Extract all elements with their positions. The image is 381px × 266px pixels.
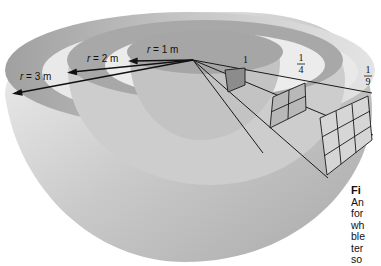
label-r3: r = 3 m [20, 71, 51, 82]
label-r1: r = 1 m [147, 44, 178, 55]
svg-text:4: 4 [299, 64, 304, 75]
caption-line: so [351, 254, 381, 266]
caption-line: ble [351, 231, 381, 243]
svg-text:9: 9 [366, 76, 371, 87]
caption-line: for [351, 208, 381, 220]
caption-title: Fi [351, 185, 381, 197]
label-r2: r = 2 m [87, 53, 118, 64]
intensity-label-1: 1 [243, 54, 248, 65]
inverse-square-diagram: r = 1 m r = 2 m r = 3 m 1 1 4 1 9 [0, 0, 381, 266]
svg-text:1: 1 [299, 52, 304, 63]
figure-caption: Fi An for wh ble ter so [351, 185, 381, 266]
svg-text:1: 1 [366, 64, 371, 75]
